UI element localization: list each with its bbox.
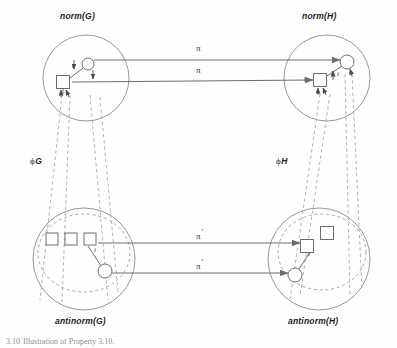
graph-norm-g: [57, 58, 95, 97]
cone-h-line-3: [345, 74, 350, 296]
region-label-antinorm-g: antinorm(G): [55, 316, 106, 326]
cone-h-line-4: [352, 74, 362, 290]
antinorm-inner-dashed-outlines: [38, 214, 366, 292]
graph-norm-h: [314, 55, 355, 95]
node-ng-square: [57, 76, 70, 89]
figure-root: norm(G) norm(H) antinorm(G) antinorm(H) …: [0, 0, 397, 348]
node-ag-square-3: [84, 233, 96, 245]
pi-symbol: π: [196, 261, 201, 271]
node-ng-circle: [82, 58, 94, 70]
graph-antinorm-g: [46, 233, 112, 278]
node-label-i-antinorm-g: i: [94, 246, 96, 254]
node-ah-square-2: [301, 240, 314, 253]
node-ag-square-1: [46, 233, 58, 245]
region-circle-norm-g: [43, 35, 129, 121]
region-label-antinorm-h: antinorm(H): [288, 316, 338, 326]
pi-prime-mark: ': [202, 228, 203, 237]
node-label-i-norm-h: i: [337, 70, 339, 78]
pi-arrow-top-2: [72, 80, 313, 82]
region-label-norm-h: norm(H): [302, 11, 336, 21]
region-circle-antinorm-g: [33, 208, 135, 310]
figure-caption-number: 3.10: [6, 337, 20, 346]
cone-h-line-2: [300, 94, 330, 296]
graph-antinorm-h: [288, 227, 334, 283]
pi-prime-mark: ': [202, 258, 203, 267]
node-ah-square-1: [321, 227, 334, 240]
node-ag-square-2: [65, 233, 77, 245]
region-circle-antinorm-h: [268, 208, 370, 310]
edge-label-pi-top-2: π: [196, 62, 202, 75]
figure-caption: 3.10Illustration of Property 3.10.: [6, 337, 114, 346]
pi-symbol: π: [196, 231, 201, 241]
edge-nh-circle-square: [327, 66, 342, 76]
tick-ng-4: [66, 90, 69, 97]
cone-g-line-4: [100, 97, 118, 292]
phi-subscript: H: [281, 156, 287, 166]
node-ag-circle: [98, 264, 112, 278]
region-label-norm-g: norm(G): [60, 11, 95, 21]
cone-g-line-2: [62, 95, 70, 302]
tick-nh-2: [350, 69, 352, 76]
inner-dashed-antinorm-g: [38, 214, 130, 292]
phi-subscript: G: [35, 156, 42, 166]
edge-label-pi-bottom-2: π': [196, 258, 203, 271]
edge-label-pi-top-1: π: [196, 40, 202, 53]
node-label-i-antinorm-h: i: [308, 250, 310, 258]
figure-caption-text: Illustration of Property 3.10.: [23, 337, 114, 346]
cone-g-line-1: [40, 95, 62, 300]
edge-label-pi-bottom-1: π': [196, 228, 203, 241]
node-nh-square: [314, 74, 327, 87]
node-ah-circle: [288, 268, 302, 282]
pi-arrows-top: [72, 60, 340, 82]
morphism-label-phi-g: ϕG: [30, 156, 42, 166]
morphism-label-phi-h: ϕH: [276, 156, 287, 166]
pi-symbol: π: [196, 65, 201, 75]
node-label-i-norm-g: i: [72, 62, 74, 70]
node-nh-circle: [340, 55, 354, 69]
tick-nh-4: [323, 88, 326, 95]
pi-symbol: π: [196, 43, 201, 53]
